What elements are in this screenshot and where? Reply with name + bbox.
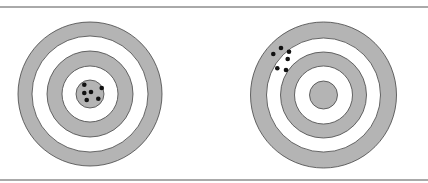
shot-dot	[287, 49, 292, 54]
right-target	[251, 22, 397, 168]
shot-dot	[284, 68, 289, 73]
shot-dot	[279, 46, 284, 51]
shot-dot	[275, 66, 280, 71]
shot-dot	[89, 90, 94, 95]
shot-dot	[82, 91, 87, 96]
shot-dot	[84, 98, 89, 103]
bullseye	[310, 81, 338, 109]
shot-dot	[99, 86, 104, 91]
shot-dot	[271, 52, 276, 57]
shot-dot	[82, 82, 87, 87]
target-diagram	[0, 0, 428, 183]
shot-dot	[96, 96, 101, 101]
left-target	[18, 22, 162, 166]
shot-dot	[285, 57, 290, 62]
